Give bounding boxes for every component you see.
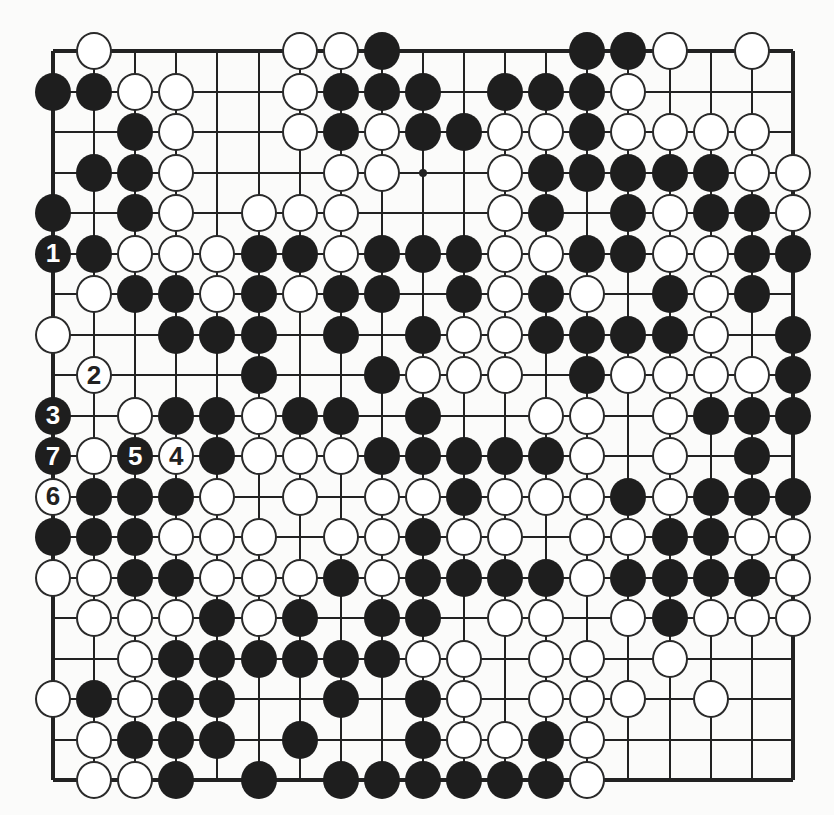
black-stone (569, 316, 605, 354)
white-stone (364, 113, 400, 151)
white-stone (528, 397, 564, 435)
white-stone (487, 194, 523, 232)
white-stone (446, 316, 482, 354)
black-stone (693, 518, 729, 556)
white-stone (117, 761, 153, 799)
black-stone (158, 397, 194, 435)
black-stone (405, 113, 441, 151)
black-stone (199, 437, 235, 475)
white-stone (775, 518, 811, 556)
black-stone (158, 316, 194, 354)
white-stone-move-6: 6 (35, 478, 71, 516)
black-stone (405, 397, 441, 435)
white-stone (693, 680, 729, 718)
black-stone (610, 194, 646, 232)
white-stone (241, 194, 277, 232)
white-stone (446, 680, 482, 718)
black-stone (158, 478, 194, 516)
white-stone (158, 194, 194, 232)
white-stone (569, 437, 605, 475)
black-stone (528, 559, 564, 597)
white-stone (569, 721, 605, 759)
white-stone (282, 113, 318, 151)
black-stone (117, 518, 153, 556)
black-stone (76, 680, 112, 718)
white-stone (652, 356, 688, 394)
black-stone (405, 559, 441, 597)
black-stone (693, 559, 729, 597)
white-stone (569, 680, 605, 718)
black-stone (76, 73, 112, 111)
white-stone (35, 316, 71, 354)
white-stone (35, 559, 71, 597)
white-stone (652, 194, 688, 232)
white-stone (775, 194, 811, 232)
white-stone (76, 599, 112, 637)
white-stone (117, 599, 153, 637)
white-stone (199, 275, 235, 313)
black-stone (734, 559, 770, 597)
white-stone (117, 397, 153, 435)
white-stone (76, 761, 112, 799)
white-stone (158, 113, 194, 151)
black-stone (775, 478, 811, 516)
white-stone (199, 518, 235, 556)
black-stone (528, 316, 564, 354)
black-stone (528, 275, 564, 313)
black-stone (446, 437, 482, 475)
black-stone (241, 356, 277, 394)
white-stone (487, 518, 523, 556)
white-stone (487, 154, 523, 192)
white-stone (282, 478, 318, 516)
white-stone (775, 154, 811, 192)
black-stone (282, 721, 318, 759)
white-stone (282, 275, 318, 313)
black-stone (199, 397, 235, 435)
black-stone (364, 235, 400, 273)
white-stone (323, 194, 359, 232)
black-stone (199, 721, 235, 759)
black-stone (405, 761, 441, 799)
black-stone (323, 73, 359, 111)
white-stone (569, 559, 605, 597)
black-stone (76, 154, 112, 192)
black-stone (487, 437, 523, 475)
black-stone (35, 73, 71, 111)
black-stone (117, 113, 153, 151)
white-stone (282, 32, 318, 70)
white-stone (487, 356, 523, 394)
white-stone (446, 721, 482, 759)
black-stone (569, 356, 605, 394)
black-stone (323, 761, 359, 799)
black-stone (693, 154, 729, 192)
black-stone (610, 32, 646, 70)
black-stone (117, 275, 153, 313)
white-stone-move-4: 4 (158, 437, 194, 475)
black-stone (569, 154, 605, 192)
white-stone (158, 518, 194, 556)
white-stone (734, 599, 770, 637)
black-stone (241, 316, 277, 354)
white-stone (241, 559, 277, 597)
white-stone (76, 32, 112, 70)
black-stone (199, 316, 235, 354)
white-stone (405, 478, 441, 516)
black-stone (446, 761, 482, 799)
white-stone (652, 397, 688, 435)
black-stone (282, 397, 318, 435)
black-stone (569, 235, 605, 273)
black-stone (282, 235, 318, 273)
black-stone (405, 316, 441, 354)
black-stone (158, 275, 194, 313)
black-stone (734, 194, 770, 232)
black-stone (775, 397, 811, 435)
black-stone (734, 478, 770, 516)
black-stone (35, 518, 71, 556)
white-stone (569, 478, 605, 516)
white-stone (487, 721, 523, 759)
black-stone (241, 235, 277, 273)
black-stone (569, 73, 605, 111)
white-stone (35, 680, 71, 718)
white-stone (117, 680, 153, 718)
white-stone (117, 73, 153, 111)
